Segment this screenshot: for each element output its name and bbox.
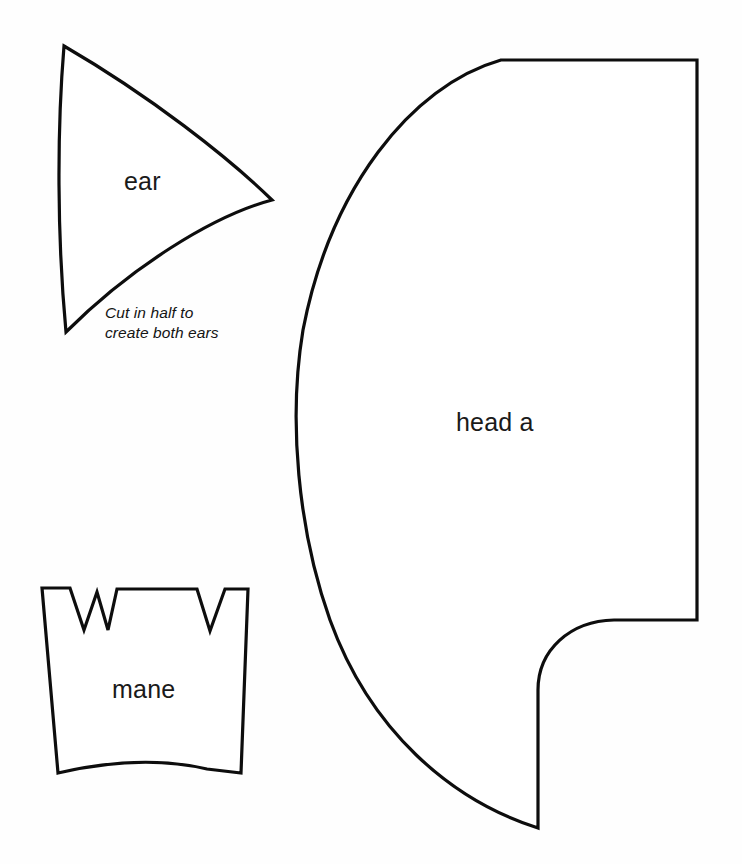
- head-a-piece-outline[interactable]: [296, 60, 697, 828]
- pattern-shapes-canvas: [0, 0, 742, 864]
- ear-piece-label: ear: [124, 167, 161, 196]
- mane-piece-label: mane: [112, 675, 175, 704]
- head-a-piece-label: head a: [456, 408, 534, 437]
- ear-cut-instruction-note: Cut in half to create both ears: [105, 303, 219, 343]
- ear-piece-outline[interactable]: [59, 46, 272, 332]
- pattern-sheet: ear Cut in half to create both ears head…: [0, 0, 742, 864]
